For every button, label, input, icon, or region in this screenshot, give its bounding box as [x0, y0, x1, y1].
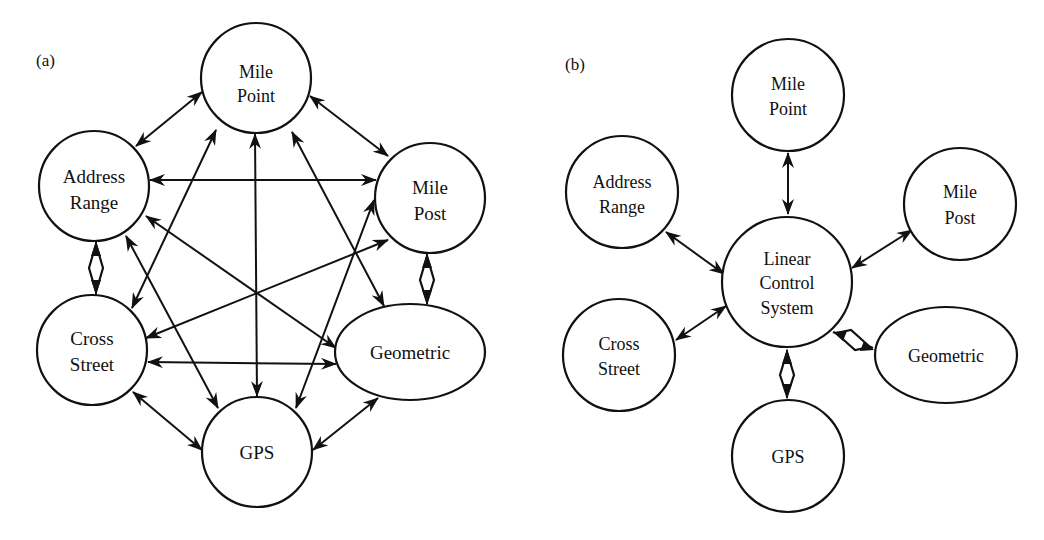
node-mile-post: Mile Post: [375, 143, 485, 253]
node-b-mile-point: Mile Point: [732, 39, 844, 151]
node-cross-street: Cross Street: [37, 295, 147, 405]
svg-text:Mile: Mile: [412, 177, 448, 198]
svg-text:Address: Address: [593, 172, 652, 192]
svg-text:Street: Street: [70, 354, 115, 375]
svg-text:Post: Post: [944, 208, 975, 228]
edge-mile-point-gps: [255, 134, 257, 396]
edge-mile-point-mile-post: [310, 96, 388, 156]
edge-cross-street-gps: [133, 392, 202, 450]
svg-text:GPS: GPS: [240, 442, 275, 463]
svg-text:Point: Point: [237, 86, 275, 106]
svg-text:Mile: Mile: [239, 62, 273, 82]
svg-text:Point: Point: [769, 99, 807, 119]
node-b-mile-post: Mile Post: [904, 148, 1016, 260]
node-b-geometric: Geometric: [875, 307, 1017, 403]
svg-text:Geometric: Geometric: [908, 346, 984, 366]
edge-address-range-cross-street: [89, 242, 103, 294]
panel-a: (a): [36, 23, 485, 507]
svg-text:Range: Range: [70, 192, 119, 213]
edge-address-range-mile-point: [136, 92, 202, 146]
diagram-canvas: (a): [0, 0, 1044, 540]
svg-text:Address: Address: [63, 166, 125, 187]
node-gps: GPS: [202, 397, 312, 507]
svg-text:Street: Street: [598, 359, 640, 379]
svg-text:Linear: Linear: [764, 249, 811, 269]
panel-b: (b): [563, 39, 1017, 512]
edge-mile-post-geometric: [420, 254, 434, 304]
edge-geometric-gps: [313, 398, 378, 450]
edge-mile-point-geometric: [292, 132, 384, 306]
node-b-address-range: Address Range: [566, 136, 678, 248]
svg-text:System: System: [760, 298, 813, 318]
svg-text:Cross: Cross: [70, 328, 113, 349]
svg-text:Mile: Mile: [943, 182, 977, 202]
edge-cross-street-lcs: [676, 306, 726, 340]
node-b-linear-control-system: Linear Control System: [722, 217, 852, 347]
edge-cross-street-geometric: [148, 362, 336, 364]
panel-a-label: (a): [36, 51, 55, 70]
node-mile-point: Mile Point: [201, 23, 311, 133]
node-geometric: Geometric: [335, 304, 485, 400]
svg-text:GPS: GPS: [771, 447, 804, 467]
edge-mile-point-cross-street: [132, 130, 216, 308]
node-b-cross-street: Cross Street: [563, 299, 675, 411]
svg-text:Geometric: Geometric: [370, 342, 450, 363]
edge-address-range-lcs: [666, 232, 724, 274]
edge-gps-lcs: [780, 350, 794, 398]
svg-text:Range: Range: [599, 197, 645, 217]
svg-text:Post: Post: [414, 203, 447, 224]
svg-text:Control: Control: [759, 273, 814, 293]
node-b-gps: GPS: [732, 400, 844, 512]
panel-b-label: (b): [565, 55, 585, 74]
edge-geometric-lcs: [833, 330, 874, 351]
svg-text:Mile: Mile: [771, 74, 805, 94]
svg-text:Cross: Cross: [598, 334, 639, 354]
node-address-range: Address Range: [39, 131, 149, 241]
edge-mile-post-lcs: [852, 230, 912, 268]
